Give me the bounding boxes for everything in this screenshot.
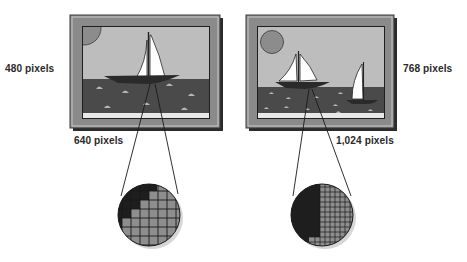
high-res-scene (258, 27, 384, 118)
low-res-width-label: 640 pixels (74, 134, 123, 146)
sun-icon (261, 31, 284, 54)
high-res-width-label: 1,024 pixels (336, 134, 394, 146)
low-res-picture-frame (67, 11, 223, 131)
resolution-diagram (0, 0, 467, 262)
low-res-magnifier (114, 180, 186, 252)
low-res-scene (67, 11, 209, 118)
low-res-height-label: 480 pixels (5, 62, 54, 74)
high-res-picture-frame (246, 15, 397, 131)
high-res-height-label: 768 pixels (403, 62, 452, 74)
